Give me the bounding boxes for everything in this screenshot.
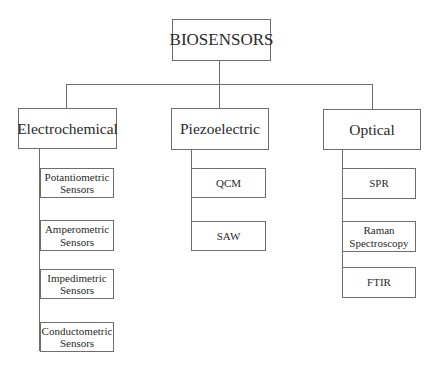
connector-root-down (219, 60, 220, 85)
root-label: BIOSENSORS (170, 30, 274, 50)
leaf-label: Impedimetric Sensors (47, 272, 106, 297)
leaf-label: Amperometric Sensors (45, 223, 109, 248)
leaf-label: Conductometric Sensors (42, 325, 113, 350)
leaf-spr: SPR (342, 168, 416, 199)
category-optical: Optical (323, 109, 421, 150)
leaf-label: QCM (216, 177, 241, 190)
connector-electrochemical-up (66, 84, 67, 108)
category-electrochemical: Electrochemical (18, 108, 117, 149)
leaf-potantiometric-sensors: Potantiometric Sensors (40, 168, 114, 198)
leaf-label: Raman Spectroscopy (349, 224, 408, 249)
leaf-raman-spectroscopy: Raman Spectroscopy (342, 221, 416, 252)
category-label: Electrochemical (17, 120, 118, 138)
leaf-label: Potantiometric Sensors (45, 171, 110, 196)
leaf-impedimetric-sensors: Impedimetric Sensors (40, 269, 114, 299)
leaf-label: SPR (369, 177, 389, 190)
connector-optical-up (372, 84, 373, 109)
leaf-ftir: FTIR (342, 267, 416, 298)
category-piezoelectric: Piezoelectric (171, 108, 269, 150)
category-label: Optical (349, 121, 395, 139)
leaf-conductometric-sensors: Conductometric Sensors (40, 322, 114, 352)
leaf-label: FTIR (367, 276, 391, 289)
leaf-qcm: QCM (191, 168, 266, 198)
connector-piezoelectric-up (219, 84, 220, 108)
leaf-amperometric-sensors: Amperometric Sensors (40, 220, 114, 251)
root-node: BIOSENSORS (172, 19, 271, 61)
category-label: Piezoelectric (180, 120, 260, 138)
leaf-saw: SAW (191, 221, 266, 251)
leaf-label: SAW (217, 230, 241, 243)
